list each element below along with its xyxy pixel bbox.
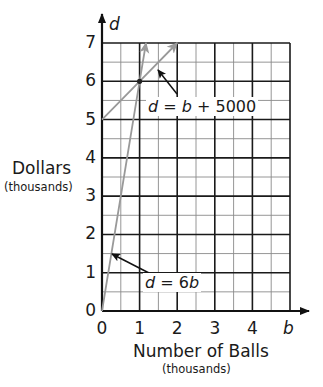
- annotation-arrow-6b: [112, 254, 149, 273]
- axes: [102, 14, 309, 311]
- grid-minor: [102, 43, 290, 311]
- x-tick-label: 0: [92, 318, 112, 338]
- y-tick-label: 5: [80, 109, 96, 129]
- x-tick-label: 4: [242, 318, 262, 338]
- equation-label-6b: d = 6b: [143, 273, 201, 292]
- eq2-lhs: d: [145, 273, 155, 292]
- y-axis-variable: d: [109, 14, 120, 34]
- eq1-var: b: [182, 97, 192, 116]
- y-tick-label: 3: [80, 185, 96, 205]
- intersection-point: [137, 79, 142, 84]
- x-axis-sublabel: (thousands): [162, 362, 231, 376]
- y-axis-sublabel: (thousands): [4, 180, 73, 194]
- eq1-rest: + 5000: [192, 97, 256, 116]
- y-tick-label: 6: [80, 70, 96, 90]
- x-axis-variable: b: [283, 318, 294, 338]
- eq2-coef: 6: [179, 273, 189, 292]
- eq2-equals: =: [155, 273, 179, 292]
- y-tick-label: 7: [80, 32, 96, 52]
- x-tick-label: 2: [167, 318, 187, 338]
- x-tick-label: 1: [130, 318, 150, 338]
- equation-label-b-plus-5000: d = b + 5000: [146, 97, 258, 116]
- x-tick-label: 3: [205, 318, 225, 338]
- y-tick-label: 1: [80, 262, 96, 282]
- eq1-lhs: d: [148, 97, 158, 116]
- y-tick-label: 4: [80, 147, 96, 167]
- y-tick-label: 2: [80, 223, 96, 243]
- y-axis-label: Dollars: [12, 158, 71, 178]
- eq2-var: b: [189, 273, 199, 292]
- eq1-equals: =: [158, 97, 182, 116]
- y-tick-label: 0: [80, 300, 96, 320]
- chart: 01234567 01234 d b Dollars (thousands) N…: [0, 0, 323, 387]
- x-axis-label: Number of Balls: [133, 341, 269, 361]
